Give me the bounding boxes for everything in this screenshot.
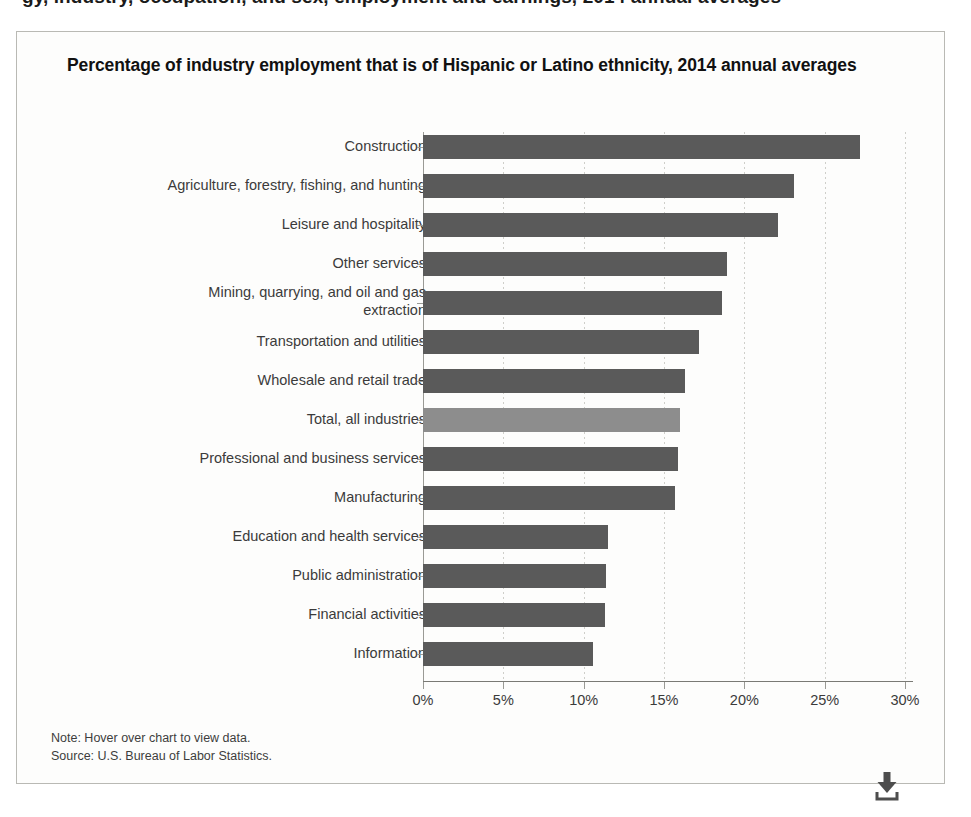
x-axis-tick-label: 0%: [393, 692, 453, 708]
y-axis-category-label: Education and health services: [6, 528, 426, 546]
x-axis-tick-label: 10%: [554, 692, 614, 708]
y-axis-category-label: Other services: [6, 255, 426, 273]
bar[interactable]: [423, 564, 606, 588]
download-icon[interactable]: [872, 770, 902, 802]
chart-footnotes: Note: Hover over chart to view data. Sou…: [51, 729, 272, 765]
bar[interactable]: [423, 525, 608, 549]
y-axis-category-label: Wholesale and retail trade: [6, 372, 426, 390]
bar[interactable]: [423, 408, 680, 432]
x-axis-tick: [423, 682, 424, 689]
x-axis-tick: [664, 682, 665, 689]
bar[interactable]: [423, 642, 593, 666]
y-axis-category-label: Leisure and hospitality: [6, 216, 426, 234]
x-axis-tick: [584, 682, 585, 689]
x-axis-tick: [905, 682, 906, 689]
bar[interactable]: [423, 174, 794, 198]
x-axis-tick-label: 20%: [714, 692, 774, 708]
x-axis-tick-label: 5%: [473, 692, 533, 708]
bar[interactable]: [423, 447, 678, 471]
bar[interactable]: [423, 213, 778, 237]
y-axis-category-label: Manufacturing: [6, 489, 426, 507]
bar[interactable]: [423, 330, 699, 354]
chart-note: Note: Hover over chart to view data.: [51, 729, 272, 747]
x-axis-line: [423, 681, 913, 682]
x-axis-tick: [503, 682, 504, 689]
y-axis-category-label: Total, all industries: [6, 411, 426, 429]
gridline: [825, 132, 826, 681]
y-axis-category-label: Transportation and utilities: [6, 333, 426, 351]
bar[interactable]: [423, 486, 675, 510]
cropped-page-heading: gy, industry, occupation, and sex, emplo…: [0, 0, 971, 22]
x-axis-tick-label: 15%: [634, 692, 694, 708]
cropped-page-heading-text: gy, industry, occupation, and sex, emplo…: [22, 0, 971, 8]
gridline: [905, 132, 906, 681]
y-axis-category-label: Mining, quarrying, and oil and gas extra…: [6, 284, 426, 319]
y-axis-category-label: Financial activities: [6, 606, 426, 624]
y-axis-category-label: Public administration: [6, 567, 426, 585]
y-axis-category-label: Professional and business services: [6, 450, 426, 468]
x-axis-tick-label: 25%: [795, 692, 855, 708]
bar[interactable]: [423, 369, 685, 393]
x-axis-tick-label: 30%: [875, 692, 935, 708]
chart-source: Source: U.S. Bureau of Labor Statistics.: [51, 747, 272, 765]
y-axis-category-label: Construction: [6, 138, 426, 156]
y-axis-category-label: Information: [6, 645, 426, 663]
x-axis-tick: [825, 682, 826, 689]
bar[interactable]: [423, 135, 860, 159]
x-axis-tick: [744, 682, 745, 689]
plot-area[interactable]: 0%5%10%15%20%25%30% ConstructionAgricult…: [17, 32, 946, 785]
y-axis-category-label: Agriculture, forestry, fishing, and hunt…: [6, 177, 426, 195]
bar[interactable]: [423, 291, 722, 315]
bar[interactable]: [423, 603, 605, 627]
chart-card: Percentage of industry employment that i…: [16, 31, 945, 784]
bar[interactable]: [423, 252, 727, 276]
